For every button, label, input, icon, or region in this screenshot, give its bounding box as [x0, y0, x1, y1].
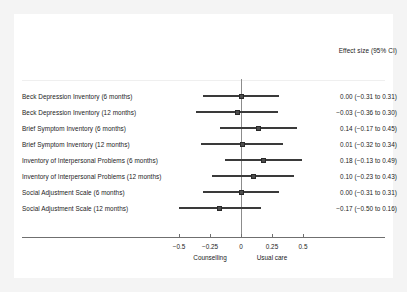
effect-size-value: 0.14 (−0.17 to 0.45)	[340, 125, 397, 132]
x-tick-mark	[179, 234, 180, 237]
effect-size-value: 0.01 (−0.32 to 0.34)	[340, 141, 397, 148]
forest-row: Social Adjustment Scale (12 months)−0.17…	[0, 200, 407, 216]
effect-size-marker	[239, 94, 244, 99]
forest-row: Brief Symptom Inventory (12 months)0.01 …	[0, 136, 407, 152]
effect-size-value: 0.00 (−0.31 to 0.31)	[340, 189, 397, 196]
forest-plot-figure: Effect size (95% CI) Beck Depression Inv…	[0, 0, 407, 292]
row-label: Inventory of Interpersonal Problems (6 m…	[22, 157, 158, 164]
direction-label: Usual care	[257, 254, 288, 261]
effect-size-value: 0.10 (−0.23 to 0.43)	[340, 173, 397, 180]
x-tick-label: 0.25	[266, 243, 278, 250]
x-tick-mark	[272, 234, 273, 237]
row-label: Beck Depression Inventory (6 months)	[22, 93, 133, 100]
effect-size-value: 0.00 (−0.31 to 0.31)	[340, 93, 397, 100]
effect-size-value: −0.17 (−0.50 to 0.16)	[336, 205, 397, 212]
effect-size-marker	[240, 142, 245, 147]
x-tick-label: −0.25	[202, 243, 218, 250]
row-label: Brief Symptom Inventory (6 months)	[22, 125, 126, 132]
forest-row: Inventory of Interpersonal Problems (6 m…	[0, 152, 407, 168]
x-tick-mark	[241, 234, 242, 237]
x-axis-line	[22, 237, 385, 238]
row-label: Social Adjustment Scale (6 months)	[22, 189, 125, 196]
direction-label: Counselling	[193, 254, 226, 261]
x-tick-mark	[303, 234, 304, 237]
forest-row: Beck Depression Inventory (6 months)0.00…	[0, 88, 407, 104]
forest-row: Inventory of Interpersonal Problems (12 …	[0, 168, 407, 184]
row-label: Brief Symptom Inventory (12 months)	[22, 141, 130, 148]
forest-row: Social Adjustment Scale (6 months)0.00 (…	[0, 184, 407, 200]
effect-size-marker	[256, 126, 261, 131]
row-label: Beck Depression Inventory (12 months)	[22, 109, 136, 116]
x-tick-mark	[210, 234, 211, 237]
forest-row: Brief Symptom Inventory (6 months)0.14 (…	[0, 120, 407, 136]
effect-size-marker	[239, 190, 244, 195]
forest-row: Beck Depression Inventory (12 months)−0.…	[0, 104, 407, 120]
effect-size-marker	[235, 110, 240, 115]
x-tick-label: 0.5	[299, 243, 308, 250]
x-tick-label: −0.5	[173, 243, 186, 250]
effect-size-marker	[217, 206, 222, 211]
effect-size-marker	[251, 174, 256, 179]
effect-size-value: 0.18 (−0.13 to 0.49)	[340, 157, 397, 164]
row-label: Social Adjustment Scale (12 months)	[22, 205, 128, 212]
x-tick-label: 0	[239, 243, 243, 250]
effect-size-value: −0.03 (−0.36 to 0.30)	[336, 109, 397, 116]
row-label: Inventory of Interpersonal Problems (12 …	[22, 173, 161, 180]
effect-size-marker	[261, 158, 266, 163]
